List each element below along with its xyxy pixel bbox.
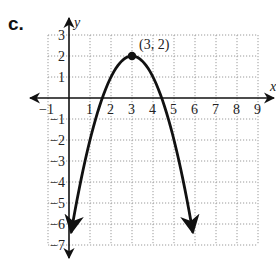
y-tick-label: −1: [50, 112, 65, 127]
x-axis-label: x: [269, 79, 276, 94]
grid: [48, 35, 258, 245]
x-tick-label: 6: [191, 102, 198, 117]
x-tick-label: 5: [170, 102, 177, 117]
y-tick-label: −4: [50, 175, 65, 190]
vertex-label: (3, 2): [139, 37, 170, 53]
x-tick-label: 2: [107, 102, 114, 117]
y-tick-label: 1: [58, 70, 65, 85]
graph: xy −1123456789321−1−2−3−4−5−6−7 (3, 2): [0, 0, 276, 260]
y-tick-label: −5: [50, 196, 65, 211]
y-tick-label: −7: [50, 238, 65, 253]
y-tick-label: −2: [50, 133, 65, 148]
x-tick-label: 7: [212, 102, 219, 117]
y-tick-label: −6: [50, 217, 65, 232]
y-tick-label: 2: [58, 49, 65, 64]
x-tick-label: 4: [149, 102, 156, 117]
vertex-annotation: (3, 2): [128, 37, 170, 60]
x-tick-label: 3: [128, 102, 135, 117]
y-tick-label: 3: [58, 28, 65, 43]
y-tick-label: −3: [50, 154, 65, 169]
x-tick-label: 8: [233, 102, 240, 117]
vertex-point: [128, 52, 136, 60]
x-tick-label: 9: [254, 102, 261, 117]
y-axis-label: y: [72, 15, 81, 30]
x-tick-label: 1: [86, 102, 93, 117]
